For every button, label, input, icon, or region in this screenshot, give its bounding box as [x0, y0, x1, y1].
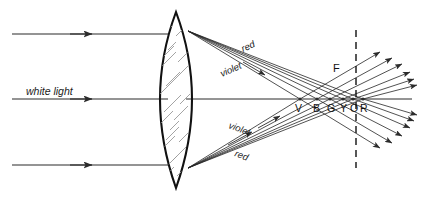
lower-ray-green	[188, 99, 330, 168]
red-upper-label: red	[239, 38, 257, 54]
diverge-orange-up	[353, 79, 414, 99]
white-light-label: white light	[26, 85, 74, 97]
red-lower-label: red	[233, 148, 250, 163]
upper-ray-orange	[188, 31, 353, 99]
upper-ray-green	[188, 31, 330, 99]
spectrum-letter-yellow: Y	[340, 102, 347, 114]
spectrum-letter-blue: B	[313, 102, 320, 114]
incoming-rays-group	[12, 34, 168, 165]
spectrum-letter-red: R	[360, 102, 368, 114]
upper-ray-yellow	[188, 31, 343, 99]
diverge-green-up	[330, 64, 402, 99]
violet-lower-label: violet	[227, 120, 252, 138]
violet-upper-label: violet	[218, 60, 243, 79]
upper-beam-arrow	[243, 62, 265, 75]
converging-lens	[158, 12, 192, 188]
lower-ray-red	[188, 99, 363, 168]
diagram-canvas: white light red violet violet red F V B …	[0, 0, 430, 197]
spectrum-letter-green: G	[327, 102, 335, 114]
diverging-rays-upper	[300, 52, 417, 99]
lower-refracted-beam	[188, 99, 363, 168]
spectrum-letter-orange: O	[350, 102, 358, 114]
optics-dispersion-figure: white light red violet violet red F V B …	[0, 0, 430, 197]
spectrum-letter-violet: V	[295, 102, 302, 114]
focal-point-label: F	[333, 62, 340, 74]
diverge-blue-up	[317, 58, 392, 99]
diverge-violet-up	[300, 52, 380, 99]
